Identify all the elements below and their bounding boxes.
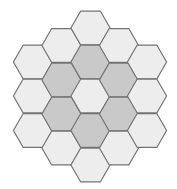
- hex-grid-canvas: [0, 0, 177, 189]
- hex-grid-diagram: [0, 0, 177, 189]
